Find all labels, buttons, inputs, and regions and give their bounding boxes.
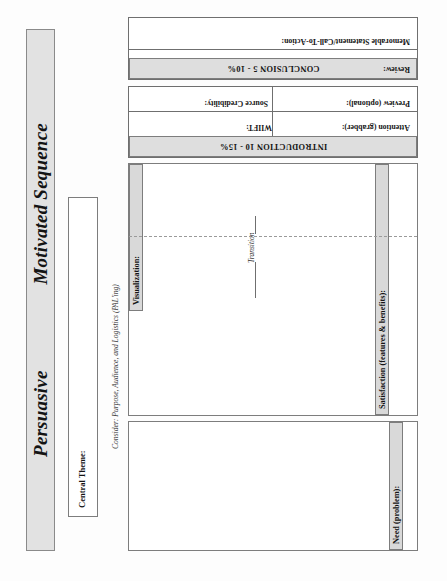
satisfaction-section-label: Satisfaction (features & benefits): — [378, 290, 387, 409]
introduction-column-divider — [129, 111, 417, 112]
document-title-banner: Persuasive Motivated Sequence — [26, 29, 55, 551]
worksheet-sheet: Persuasive Motivated Sequence Central Th… — [0, 0, 447, 581]
introduction-header: INTRODUCTION 10 - 15% — [129, 136, 417, 157]
pal-consideration-note: Consider: Purpose, Audience, and Logisti… — [111, 284, 120, 449]
page-title-left: Persuasive — [30, 370, 52, 456]
page-title-right: Motivated Sequence — [30, 123, 52, 284]
introduction-header-label: INTRODUCTION 10 - 15% — [219, 142, 327, 151]
transition-leader-left — [255, 262, 256, 298]
introduction-wiift-label: WIIFT: — [246, 123, 272, 132]
visualization-section-label: Visualization: — [132, 256, 141, 305]
conclusion-header: CONCLUSION 5 - 10% — [129, 58, 417, 79]
introduction-preview-label: Preview (optional): — [346, 99, 410, 108]
conclusion-review-label: Review: — [383, 65, 410, 74]
introduction-row-divider-left — [272, 111, 273, 136]
introduction-attention-label: Attention (grabber): — [342, 123, 410, 132]
transition-divider — [129, 236, 417, 237]
conclusion-memorable-statement-label: Memorable Statement/Call-To-Action: — [281, 37, 410, 46]
central-theme-label: Central Theme: — [77, 450, 87, 508]
central-theme-field[interactable]: Central Theme: — [68, 197, 98, 517]
transition-leader-right — [255, 216, 256, 234]
introduction-row-divider-right — [272, 86, 273, 112]
introduction-source-credibility-label: Source Credibility: — [204, 99, 268, 108]
visualization-section-label-tab: Visualization: — [129, 164, 143, 311]
satisfaction-section-label-tab: Satisfaction (features & benefits): — [375, 164, 389, 415]
need-section-label-tab: Need (problem): — [389, 422, 403, 550]
conclusion-header-label: CONCLUSION 5 - 10% — [227, 64, 319, 73]
conclusion-column-divider — [129, 49, 417, 50]
rotated-page-container: Persuasive Motivated Sequence Central Th… — [0, 0, 447, 581]
transition-label: Transition — [247, 233, 256, 263]
need-section-label: Need (problem): — [392, 486, 401, 544]
need-section-field[interactable] — [128, 421, 418, 551]
